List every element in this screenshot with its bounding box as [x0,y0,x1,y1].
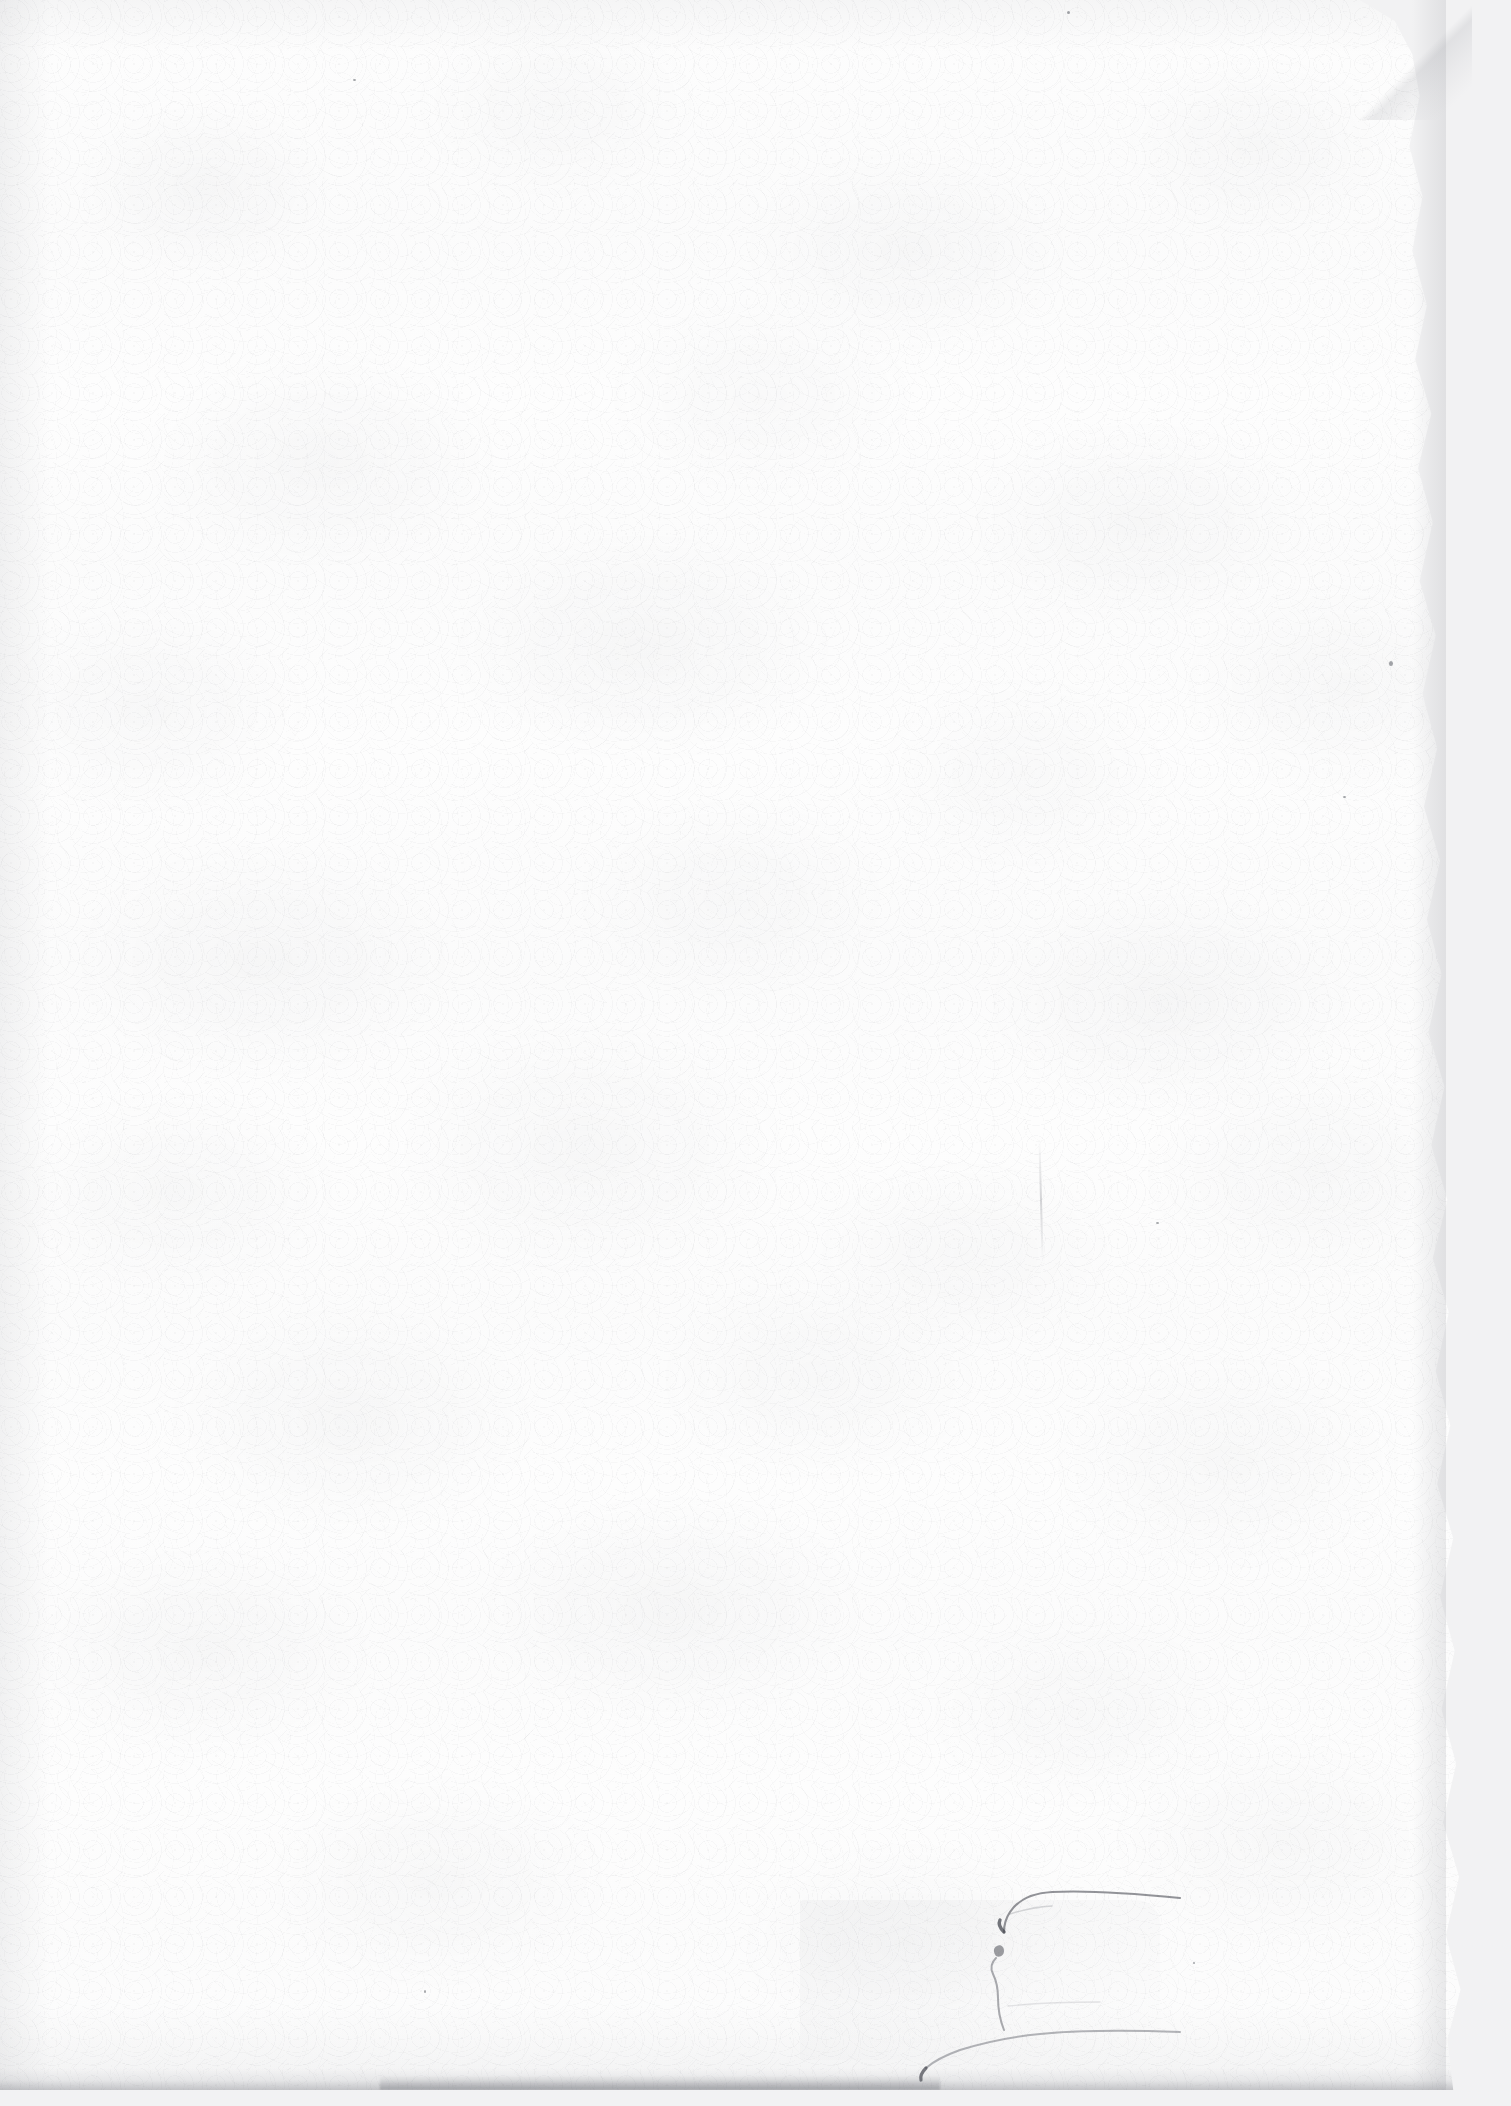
ink-speck [1389,661,1393,666]
ink-speck [1156,1222,1159,1224]
ink-speck [353,79,356,81]
torn-flap-shading [800,1900,1160,2060]
bottom-edge-dark-shadow [380,2076,940,2090]
ink-speck [1067,11,1070,14]
paper-sheet [0,0,1462,2090]
scanned-page-canvas [0,0,1511,2106]
ink-speck [1343,796,1346,798]
paper-edge-vignette [0,0,1462,2090]
ink-speck [1193,1962,1195,1964]
ink-speck [424,1990,426,1993]
